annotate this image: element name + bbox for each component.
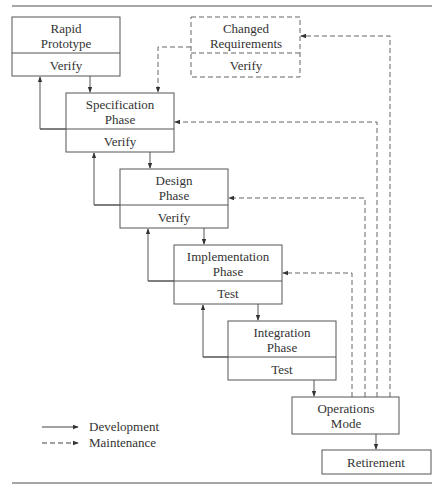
node-sub: Verify [230,58,263,73]
node-sub: Verify [158,210,191,225]
legend-item-maintenance: Maintenance [42,435,156,450]
node-title: Operations [317,401,374,416]
legend-label: Maintenance [89,435,156,450]
node-title: Implementation [187,249,270,264]
arrow-impl-to-design [148,229,174,281]
node-implementation-phase: Implementation Phase Test [148,245,282,304]
node-title: Retirement [347,455,405,470]
legend: Development Maintenance [42,419,159,450]
node-specification-phase: Specification Phase Verify [40,93,174,152]
node-sub: Test [217,286,239,301]
node-design-phase: Design Phase Verify [94,169,228,228]
node-title: Changed [223,21,270,36]
node-title: Phase [105,112,136,127]
arrow-spec-to-prototype [40,77,66,129]
node-title: Phase [267,340,298,355]
node-title: Specification [86,97,155,112]
node-retirement: Retirement [322,450,431,474]
arrow-changedreq-to-spec [158,47,191,92]
node-title: Requirements [210,36,282,51]
arrow-integ-to-impl [203,305,228,357]
node-rapid-prototype: Rapid Prototype Verify [12,17,120,76]
node-title: Rapid [50,21,82,36]
node-title: Phase [159,188,190,203]
node-integration-phase: Integration Phase Test [203,321,336,380]
legend-label: Development [89,419,159,434]
legend-item-development: Development [42,419,159,434]
node-sub: Test [271,362,293,377]
node-changed-requirements: Changed Requirements Verify [191,17,300,77]
node-title: Design [156,173,193,188]
node-title: Integration [253,325,311,340]
arrow-design-to-spec [94,153,120,205]
node-operations-mode: Operations Mode [292,397,399,434]
node-sub: Verify [50,58,83,73]
node-sub: Verify [104,134,137,149]
waterfall-diagram: Rapid Prototype Verify Changed Requireme… [0,0,441,492]
node-title: Prototype [41,36,92,51]
node-title: Mode [331,416,362,431]
node-title: Phase [213,264,244,279]
